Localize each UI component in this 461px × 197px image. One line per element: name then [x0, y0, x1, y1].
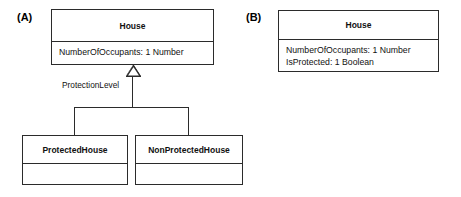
generalization-drop-left — [74, 107, 75, 135]
class-box-house-b[interactable]: House NumberOfOccupants: 1 Number IsProt… — [278, 10, 439, 72]
class-attributes-house-b: NumberOfOccupants: 1 Number IsProtected:… — [279, 40, 438, 68]
generalization-drop-right — [188, 107, 189, 135]
generalization-arrowhead-icon — [126, 65, 140, 76]
class-attribute: NumberOfOccupants: 1 Number — [59, 47, 206, 59]
panel-label-b: (B) — [246, 11, 261, 24]
class-name-protectedhouse: ProtectedHouse — [23, 136, 127, 163]
class-attributes-protectedhouse — [23, 164, 127, 169]
class-attribute: IsProtected: 1 Boolean — [286, 57, 431, 69]
panel-label-a: (A) — [17, 11, 32, 24]
class-attribute: NumberOfOccupants: 1 Number — [286, 45, 431, 57]
class-box-nonprotectedhouse[interactable]: NonProtectedHouse — [135, 135, 243, 185]
class-attributes-nonprotectedhouse — [136, 164, 242, 169]
generalization-label: ProtectionLevel — [62, 80, 119, 91]
class-name-house-a: House — [52, 10, 213, 41]
generalization-stem — [132, 76, 133, 108]
class-box-protectedhouse[interactable]: ProtectedHouse — [22, 135, 128, 185]
diagram-canvas: (A) House NumberOfOccupants: 1 Number Pr… — [0, 0, 461, 197]
class-box-house-a[interactable]: House NumberOfOccupants: 1 Number — [51, 9, 214, 65]
class-name-nonprotectedhouse: NonProtectedHouse — [136, 136, 242, 163]
class-name-house-b: House — [279, 11, 438, 39]
class-attributes-house-a: NumberOfOccupants: 1 Number — [52, 42, 213, 59]
generalization-bar — [74, 107, 189, 108]
